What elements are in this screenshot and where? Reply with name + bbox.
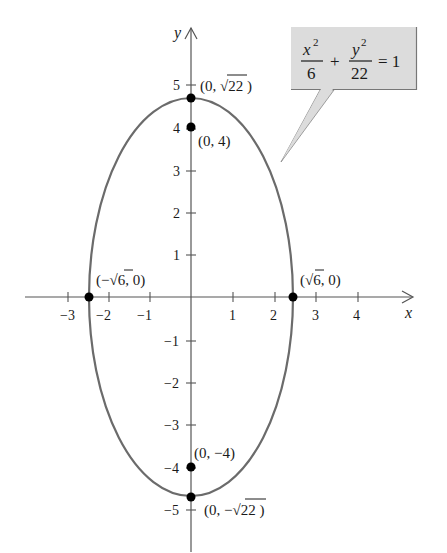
eq-plus: + <box>330 52 340 71</box>
y-tick-label: −1 <box>164 334 179 349</box>
y-tick-label: 1 <box>173 248 180 263</box>
y-tick-label: −2 <box>164 376 179 391</box>
eq-term1-denominator: 6 <box>307 64 316 83</box>
label-focus-bottom: (0, −4) <box>194 445 235 462</box>
x-tick-label: 3 <box>312 308 319 323</box>
eq-term2-exponent: 2 <box>361 36 367 48</box>
label-left-vertex: (−√6, 0) <box>96 272 145 289</box>
label-top-vertex: (0, √22 ) <box>200 78 252 95</box>
point-focus-top <box>187 123 196 132</box>
label-right-vertex: (√6, 0) <box>300 272 341 289</box>
y-tick-label: 4 <box>173 121 180 136</box>
y-tick-label: 2 <box>173 206 180 221</box>
axes: x y −3 −2 −1 1 2 3 4 <box>25 24 413 552</box>
eq-term2-denominator: 22 <box>351 64 368 83</box>
y-tick-label: −4 <box>164 461 179 476</box>
y-tick-label: −3 <box>164 418 179 433</box>
point-left-vertex <box>85 293 94 302</box>
point-top-vertex <box>187 94 196 103</box>
x-tick-label: 1 <box>229 308 236 323</box>
y-tick-label: 3 <box>173 164 180 179</box>
eq-term2-numerator: y <box>350 40 360 59</box>
eq-term1-exponent: 2 <box>313 36 319 48</box>
x-axis-label: x <box>404 304 412 321</box>
label-focus-top: (0, 4) <box>198 133 231 150</box>
y-tick-label: 5 <box>173 78 180 93</box>
point-bottom-vertex <box>187 493 196 502</box>
x-tick-label: −1 <box>137 308 152 323</box>
x-tick-label: 2 <box>270 308 277 323</box>
ellipse-diagram: x 2 6 + y 2 22 = 1 x y −3 −2 −1 1 <box>0 0 447 553</box>
eq-term1-numerator: x <box>302 40 311 59</box>
x-tick-label: 4 <box>353 308 360 323</box>
y-tick-label: −5 <box>164 503 179 518</box>
x-tick-label: −3 <box>60 308 75 323</box>
point-focus-bottom <box>187 463 196 472</box>
y-axis-label: y <box>172 24 182 42</box>
equation-callout: x 2 6 + y 2 22 = 1 <box>281 27 417 162</box>
eq-rhs: = 1 <box>378 52 400 71</box>
x-tick-label: −2 <box>96 308 111 323</box>
point-right-vertex <box>289 293 298 302</box>
label-bottom-vertex: (0, −√22 ) <box>204 502 264 519</box>
